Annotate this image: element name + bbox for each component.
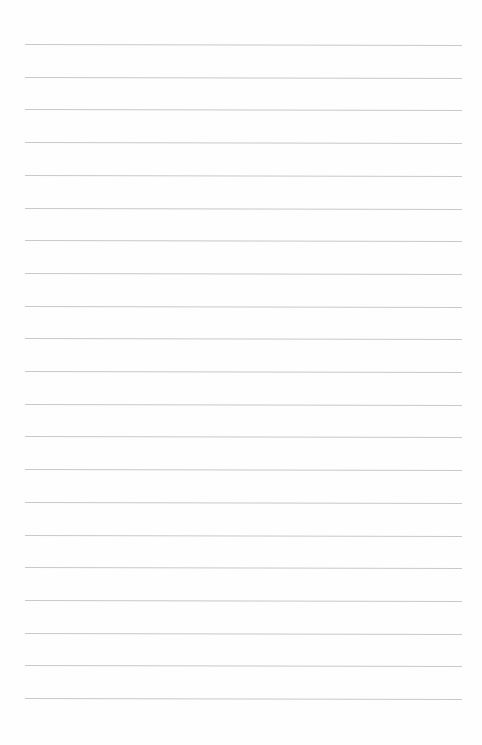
ruled-line bbox=[25, 306, 462, 308]
ruled-line bbox=[25, 535, 462, 537]
ruled-line bbox=[25, 44, 462, 46]
ruled-line bbox=[25, 371, 462, 373]
ruled-line bbox=[25, 436, 462, 438]
ruled-line bbox=[25, 665, 462, 667]
ruled-line bbox=[25, 502, 462, 504]
ruled-line bbox=[25, 77, 462, 79]
ruled-line bbox=[25, 567, 462, 569]
ruled-line bbox=[25, 109, 462, 111]
ruled-line bbox=[25, 633, 462, 635]
ruled-line bbox=[25, 698, 462, 700]
lined-paper-page bbox=[0, 0, 482, 745]
ruled-line bbox=[25, 404, 462, 406]
ruled-line bbox=[25, 469, 462, 471]
ruled-line bbox=[25, 208, 462, 210]
ruled-line bbox=[25, 600, 462, 602]
ruled-line bbox=[25, 338, 462, 340]
ruled-line bbox=[25, 240, 462, 242]
ruled-line bbox=[25, 273, 462, 275]
ruled-line bbox=[25, 175, 462, 177]
ruled-line bbox=[25, 142, 462, 144]
